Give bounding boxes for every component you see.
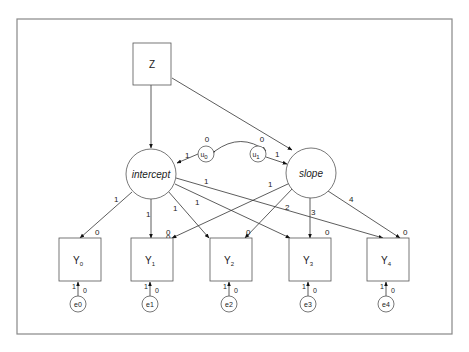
- svg-text:1: 1: [144, 283, 148, 290]
- node-y2: Y2 0: [210, 228, 252, 281]
- edge-intercept-y3: [175, 184, 290, 238]
- svg-text:0: 0: [205, 135, 210, 144]
- svg-text:e1: e1: [146, 301, 154, 308]
- svg-text:0: 0: [234, 287, 238, 294]
- svg-text:0: 0: [325, 228, 330, 237]
- svg-text:1: 1: [223, 283, 227, 290]
- svg-text:1: 1: [204, 177, 209, 186]
- svg-text:0: 0: [166, 228, 171, 237]
- edge-slope-y1: [245, 188, 293, 238]
- node-u0: u0 0: [198, 135, 214, 162]
- svg-text:1: 1: [302, 283, 306, 290]
- svg-text:e2: e2: [225, 301, 233, 308]
- svg-text:Z: Z: [149, 59, 155, 70]
- path-diagram: Z intercept slope u0 0 u1 0 1 1 1 1 1 1 …: [0, 0, 469, 352]
- svg-text:e3: e3: [304, 301, 312, 308]
- svg-text:0: 0: [246, 228, 251, 237]
- edge-intercept-y0: [80, 192, 132, 238]
- svg-text:1: 1: [146, 210, 151, 219]
- node-slope: slope: [286, 148, 336, 198]
- svg-text:1: 1: [380, 283, 384, 290]
- svg-text:2: 2: [285, 203, 290, 212]
- svg-text:intercept: intercept: [132, 169, 172, 180]
- svg-text:1: 1: [114, 195, 119, 204]
- error-e1: e1 1 0: [142, 282, 159, 312]
- svg-text:1: 1: [173, 204, 178, 213]
- svg-text:1: 1: [72, 283, 76, 290]
- edge-intercept-y4: [176, 178, 383, 238]
- svg-text:1: 1: [195, 198, 200, 207]
- error-e0: e0 1 0: [70, 282, 87, 312]
- node-y4: Y4 0: [367, 228, 409, 281]
- edge-slope-y4: [328, 191, 400, 238]
- svg-text:3: 3: [311, 208, 316, 217]
- node-z: Z: [133, 43, 171, 85]
- error-e4: e4 1 0: [378, 282, 395, 312]
- node-y1: Y1 0: [131, 228, 173, 281]
- node-y0: Y0 0: [59, 228, 101, 281]
- svg-text:1: 1: [185, 151, 190, 160]
- svg-text:0: 0: [95, 228, 100, 237]
- svg-text:slope: slope: [299, 168, 323, 179]
- edge-z-slope: [172, 78, 292, 150]
- svg-text:0: 0: [83, 287, 87, 294]
- error-e3: e3 1 0: [300, 282, 317, 312]
- node-u1: u1 0: [250, 135, 266, 162]
- svg-text:0: 0: [403, 228, 408, 237]
- svg-text:e0: e0: [74, 301, 82, 308]
- svg-text:4: 4: [349, 195, 354, 204]
- svg-text:0: 0: [313, 287, 317, 294]
- svg-text:1: 1: [275, 150, 280, 159]
- svg-text:1: 1: [268, 180, 273, 189]
- svg-text:e4: e4: [382, 301, 390, 308]
- node-intercept: intercept: [126, 149, 176, 199]
- error-e2: e2 1 0: [221, 282, 238, 312]
- svg-text:0: 0: [391, 287, 395, 294]
- svg-text:0: 0: [155, 287, 159, 294]
- edge-intercept-y2: [168, 191, 209, 238]
- svg-text:0: 0: [260, 135, 265, 144]
